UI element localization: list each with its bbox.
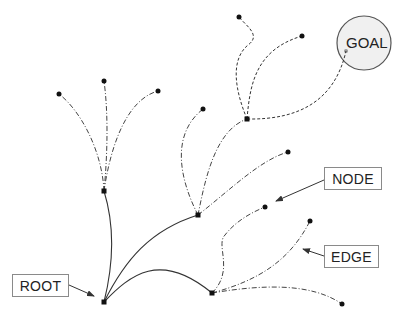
edge-n1-n7 [104,91,158,191]
node-n13 [308,219,313,224]
edge-root-n1 [104,191,112,302]
edge-n3-n14 [212,287,342,304]
node-n12 [263,205,268,210]
edge-n1-n6 [104,81,107,191]
nodes [57,15,345,307]
node-n11 [300,34,305,39]
edge-n4-n11 [247,36,302,119]
edge-n4-goal [247,51,346,119]
tree-diagram: GOAL ROOT NODE EDGE [0,0,399,314]
node-label: NODE [324,167,382,190]
root-callout-arrow [69,285,94,296]
node-n10 [237,15,242,20]
edge-n3-n12 [212,207,265,293]
node-n3 [210,291,215,296]
edge-callout-arrow [303,249,324,256]
node-root [102,300,107,305]
node-n2 [196,213,201,218]
node-callout-arrow [276,180,324,201]
edge-n4-n10 [236,17,253,119]
callout-arrows [69,180,324,296]
edge-n2-n9 [198,152,288,215]
node-n5 [57,92,62,97]
edge-n3-n13 [212,221,310,293]
node-n7 [156,89,161,94]
node-n8 [201,107,206,112]
root-label: ROOT [12,274,69,297]
goal-label: GOAL [346,34,388,51]
node-n1 [102,189,107,194]
node-n4 [245,117,250,122]
edge-n2-n8 [181,109,203,215]
dashdot-edges [59,81,342,304]
edge-n2-n4 [198,119,247,215]
solid-edges [104,191,212,302]
edge-label: EDGE [324,245,379,268]
dashed-edges [236,17,346,119]
edge-n1-n5 [59,94,104,191]
node-n9 [286,150,291,155]
node-n6 [102,79,107,84]
node-n14 [340,302,345,307]
